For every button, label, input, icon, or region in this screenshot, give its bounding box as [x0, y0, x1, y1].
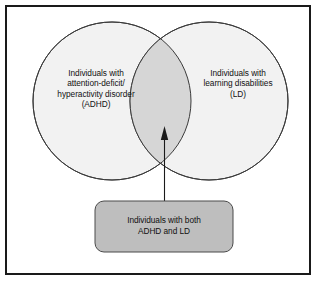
venn-graphic — [0, 0, 319, 283]
venn-diagram-figure: Individuals with attention-deficit/ hype… — [0, 0, 319, 283]
callout-box-shape — [95, 201, 233, 252]
